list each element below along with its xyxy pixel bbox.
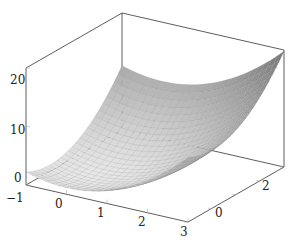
x-tick-label: 0 [55, 197, 63, 211]
x-tick-label: 2 [138, 215, 146, 229]
y-tick-label: 0 [215, 206, 223, 220]
z-tick-label: 10 [10, 123, 25, 137]
z-tick-label: 0 [14, 171, 22, 185]
y-tick-label: 2 [262, 179, 270, 193]
z-tick-label: 20 [10, 73, 25, 87]
surface-plot: 20100−1012302 [0, 0, 295, 243]
x-tick-label: −1 [6, 191, 24, 205]
x-tick-label: 1 [97, 206, 105, 220]
x-tick-label: 3 [180, 225, 188, 239]
surface-mesh [26, 51, 284, 191]
